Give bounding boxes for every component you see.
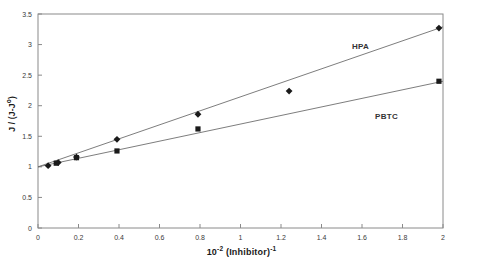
x-tick-label: 1.2 bbox=[276, 234, 286, 241]
series-annotation-pbtc: PBTC bbox=[375, 112, 398, 121]
data-point-pbtc bbox=[195, 126, 200, 131]
y-tick-label: 0 bbox=[28, 225, 32, 232]
x-axis-title-superscript-2: -1 bbox=[270, 245, 276, 252]
y-tick-label: 1 bbox=[28, 163, 32, 170]
x-tick-label: 0 bbox=[36, 234, 40, 241]
trend-line-hpa bbox=[38, 27, 443, 167]
data-point-pbtc bbox=[436, 79, 441, 84]
data-point-pbtc bbox=[114, 148, 119, 153]
y-tick-label: 0.5 bbox=[22, 194, 32, 201]
y-tick-label: 1.5 bbox=[22, 133, 32, 140]
x-axis-title: 10-2 (Inhibitor)-1 bbox=[0, 245, 483, 257]
x-tick-label: 2 bbox=[441, 234, 445, 241]
plot-frame bbox=[38, 14, 443, 228]
data-point-hpa bbox=[286, 88, 293, 95]
y-axis-title-wrap: J / (J-Jo) bbox=[2, 86, 18, 156]
x-tick-label: 0.2 bbox=[74, 234, 84, 241]
scatter-plot: 00.20.40.60.811.21.41.61.8200.511.522.53… bbox=[0, 0, 483, 268]
x-tick-label: 0.8 bbox=[195, 234, 205, 241]
data-point-pbtc bbox=[54, 161, 59, 166]
data-point-hpa bbox=[195, 111, 202, 118]
x-tick-label: 1.4 bbox=[317, 234, 327, 241]
x-tick-label: 0.6 bbox=[155, 234, 165, 241]
data-markers bbox=[45, 25, 443, 169]
series-annotation-hpa: HPA bbox=[352, 42, 369, 51]
trend-line-pbtc bbox=[38, 81, 443, 167]
trend-lines bbox=[38, 27, 443, 167]
data-point-hpa bbox=[114, 136, 121, 143]
y-tick-label: 3.5 bbox=[22, 11, 32, 18]
y-tick-label: 2.5 bbox=[22, 72, 32, 79]
x-tick-label: 0.4 bbox=[114, 234, 124, 241]
data-point-hpa bbox=[45, 162, 52, 169]
x-tick-label: 1.8 bbox=[398, 234, 408, 241]
y-tick-label: 3 bbox=[28, 41, 32, 48]
data-point-hpa bbox=[436, 25, 443, 32]
x-tick-label: 1.6 bbox=[357, 234, 367, 241]
y-tick-label: 2 bbox=[28, 102, 32, 109]
y-axis-title-superscript: o bbox=[5, 99, 12, 103]
data-point-pbtc bbox=[74, 155, 79, 160]
chart-figure: 00.20.40.60.811.21.41.61.8200.511.522.53… bbox=[0, 0, 483, 268]
x-tick-label: 1 bbox=[239, 234, 243, 241]
axis-ticks bbox=[38, 14, 443, 228]
y-axis-title: J / (J-Jo) bbox=[5, 79, 17, 149]
